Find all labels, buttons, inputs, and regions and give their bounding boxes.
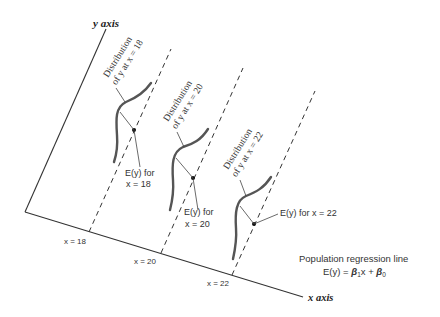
ey-label-x20-line1: E(y) for: [184, 207, 214, 217]
y-axis-label: y axis: [91, 17, 119, 29]
distribution-curve-x20: [170, 129, 208, 210]
x-tick-20: x = 20: [134, 257, 157, 266]
leader-dist-x20: [177, 132, 184, 147]
leader-dist-x22: [240, 180, 246, 196]
x-axis-line: [25, 212, 303, 297]
connector-x22: [240, 206, 254, 224]
ey-label-x18-line1: E(y) for: [125, 168, 155, 178]
x-axis-label: x axis: [307, 292, 333, 303]
ey-label-x22: E(y) for x = 22: [280, 208, 337, 218]
regression-distribution-diagram: y axis x axis x = 18 x = 20 x = 22 Distr…: [0, 0, 440, 317]
dist-label-x22: Distribution of y at x = 22: [220, 124, 265, 179]
connector-x18: [120, 112, 134, 130]
ey-label-x20-line2: x = 20: [185, 219, 210, 229]
connector-x20: [176, 158, 193, 178]
dashed-line-x22: [232, 91, 315, 275]
ey-label-x18-line2: x = 18: [126, 179, 151, 189]
regression-title: Population regression line: [299, 253, 408, 264]
leader-ey-x18: [134, 130, 140, 167]
dist-label-x20: Distribution of y at x = 20: [160, 76, 205, 131]
distribution-curve-x22: [233, 177, 271, 259]
dist-label-x18: Distribution of y at x = 18: [100, 32, 145, 87]
leader-dist-x18: [116, 88, 125, 102]
regression-equation: E(y) = β1x + β0: [323, 266, 386, 278]
x-tick-18: x = 18: [64, 237, 87, 246]
y-axis-line: [25, 29, 106, 212]
leader-ey-x22: [254, 214, 278, 224]
leader-ey-x20: [193, 178, 198, 210]
x-tick-22: x = 22: [207, 279, 230, 288]
distribution-curve-x18: [114, 83, 151, 162]
dashed-line-x18: [89, 49, 171, 232]
